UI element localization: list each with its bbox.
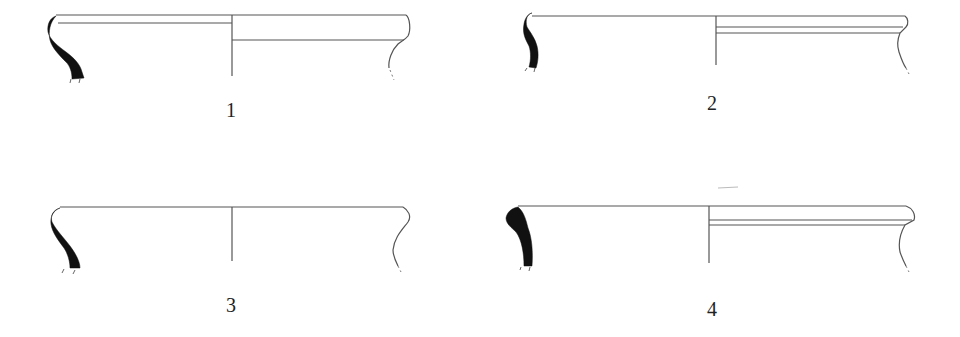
figure-3-break-marks: [398, 266, 401, 272]
figure-1-number: 1: [226, 100, 236, 120]
figure-1-exterior-outline: [389, 15, 410, 68]
figure-2-profile-section: [523, 13, 538, 68]
figure-4-break-marks-left: [520, 267, 530, 271]
figure-2-drawing: [523, 13, 909, 74]
figure-2-break-marks-left: [525, 68, 535, 72]
figure-1-drawing: [48, 15, 410, 83]
figure-4-break-marks: [906, 266, 909, 272]
figure-3-drawing: [51, 207, 410, 274]
figure-2-exterior-outline: [898, 16, 908, 68]
figure-2-number: 2: [707, 93, 717, 113]
pottery-plate: [0, 0, 960, 337]
figure-3-break-marks-left: [62, 269, 75, 274]
figure-1-profile-section: [48, 16, 84, 79]
figure-4-profile-section: [506, 207, 532, 266]
figure-1-break-marks-left: [70, 79, 80, 83]
figure-4-exterior-outline: [899, 206, 914, 266]
figure-4-stray-mark: [718, 187, 738, 188]
figure-2-break-marks: [906, 68, 909, 74]
figure-1-break-marks: [390, 70, 394, 80]
figure-3-exterior-outline: [393, 207, 410, 266]
figure-3-number: 3: [226, 295, 236, 315]
figure-3-profile-section: [51, 208, 80, 268]
figure-4-drawing: [506, 187, 915, 272]
figure-4-number: 4: [707, 299, 717, 319]
